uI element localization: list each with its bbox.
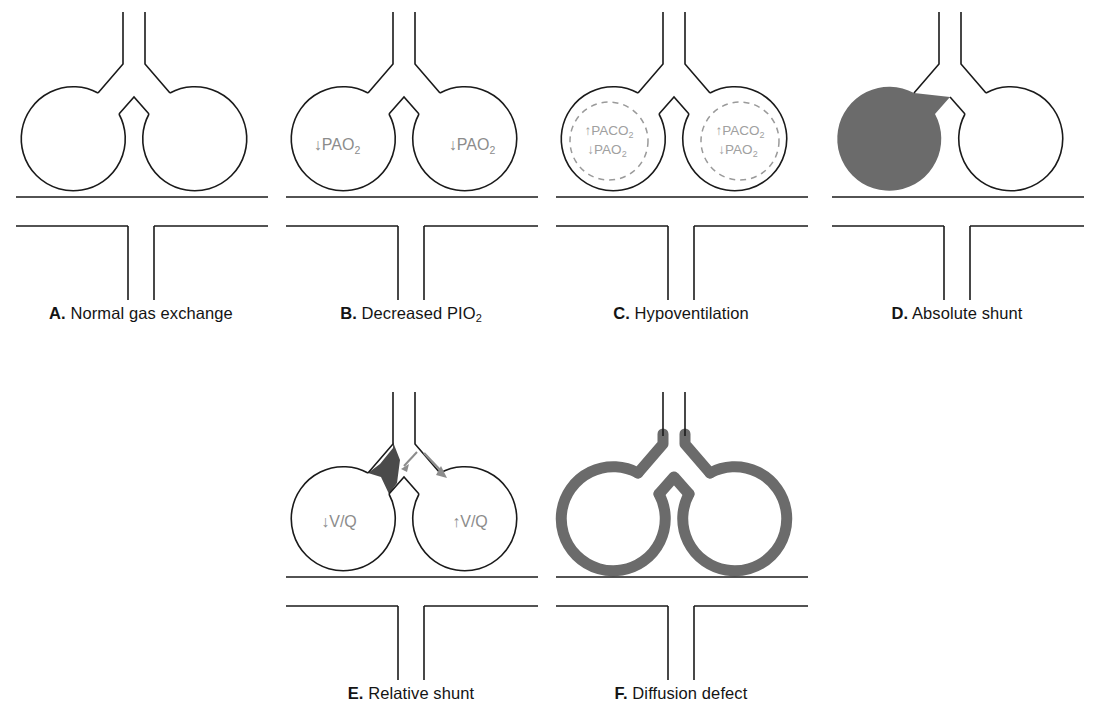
panel-f-diffusion-defect: F. Diffusion defect [546, 384, 816, 724]
right-alveolus-wall [959, 87, 1063, 191]
flow-arrow-left-icon [401, 452, 417, 472]
panel-c-letter: C. [613, 304, 630, 322]
panel-a-caption: A. Normal gas exchange [6, 304, 276, 323]
gas-exchange-figure: A. Normal gas exchange ↓PAO2 ↓PAO [0, 0, 1117, 728]
panel-b-decreased-pio2: ↓PAO2 ↓PAO2 B. Decreased PIO2 [276, 4, 546, 344]
panel-f-caption: F. Diffusion defect [546, 684, 816, 703]
left-alveolus-wall [21, 87, 125, 191]
left-airway-wall [914, 12, 939, 93]
panel-c-caption: C. Hypoventilation [546, 304, 816, 323]
panel-a-diagram [6, 4, 276, 304]
right-dashed-inner-circle [701, 102, 779, 180]
panel-d-absolute-shunt: D. Absolute shunt [822, 4, 1092, 344]
panel-e-caption: E. Relative shunt [276, 684, 546, 703]
left-airway-wall [368, 12, 393, 93]
carina-apex [119, 97, 149, 114]
panel-d-title: Absolute shunt [912, 304, 1023, 322]
carina-apex-right [950, 97, 965, 114]
panel-b-title-sub: 2 [476, 312, 482, 324]
right-airway-wall [415, 12, 440, 93]
left-airway-wall-thick [638, 434, 663, 473]
panel-c-hypoventilation: ↑PACO2 ↓PAO2 ↑PACO2 ↓PAO2 C. Hypoventila… [546, 4, 816, 344]
right-alveolus-label-vq: ↑V/Q [452, 513, 488, 530]
carina-apex [389, 97, 419, 114]
right-alveolus-label-pao2: ↓PAO2 [718, 142, 757, 159]
right-alveolus-wall [143, 87, 247, 191]
panel-f-title: Diffusion defect [632, 684, 747, 702]
panel-b-title: Decreased PIO [362, 304, 476, 322]
panel-a-normal-gas-exchange: A. Normal gas exchange [6, 4, 276, 344]
right-airway-wall-thick [685, 434, 710, 473]
left-dashed-inner-circle [570, 102, 648, 180]
right-airway-wall [145, 12, 170, 93]
panel-e-letter: E. [348, 684, 364, 702]
carina-apex [659, 97, 689, 114]
panel-d-diagram [822, 4, 1092, 304]
right-alveolus-wall-thick [683, 467, 787, 571]
right-airway-wall [685, 12, 710, 93]
right-airway-wall [961, 12, 986, 93]
panel-e-relative-shunt: ↓V/Q ↑V/Q E. Relative shunt [276, 384, 546, 724]
right-airway-wall [415, 392, 440, 473]
left-alveolus-filled [837, 87, 950, 191]
panel-f-diagram [546, 384, 816, 684]
panel-c-diagram: ↑PACO2 ↓PAO2 ↑PACO2 ↓PAO2 [546, 4, 816, 304]
flow-arrow-right-icon [424, 453, 447, 478]
panel-a-title: Normal gas exchange [70, 304, 232, 322]
panel-b-diagram: ↓PAO2 ↓PAO2 [276, 4, 546, 304]
panel-f-letter: F. [615, 684, 628, 702]
left-alveolus-label-pao2: ↓PAO2 [587, 142, 626, 159]
panel-e-diagram: ↓V/Q ↑V/Q [276, 384, 546, 684]
left-alveolus-label-paco2: ↑PACO2 [584, 123, 633, 140]
right-alveolus-label: ↓PAO2 [449, 136, 496, 156]
left-alveolus-label: ↓PAO2 [314, 136, 361, 156]
panel-d-caption: D. Absolute shunt [822, 304, 1092, 323]
panel-b-caption: B. Decreased PIO2 [276, 304, 546, 323]
panel-e-title: Relative shunt [368, 684, 474, 702]
panel-d-letter: D. [891, 304, 908, 322]
right-alveolus-label-paco2: ↑PACO2 [715, 123, 764, 140]
left-airway-wall [98, 12, 123, 93]
panel-a-letter: A. [49, 304, 66, 322]
left-alveolus-label-vq: ↓V/Q [321, 513, 357, 530]
left-alveolus-wall-thick [561, 467, 665, 571]
panel-b-letter: B. [340, 304, 357, 322]
panel-c-title: Hypoventilation [635, 304, 749, 322]
left-airway-wall [638, 12, 663, 93]
